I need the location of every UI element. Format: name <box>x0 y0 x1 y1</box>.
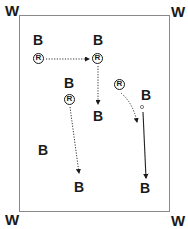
player-b5: B <box>141 88 151 102</box>
player-b6: B <box>38 143 48 157</box>
small-dot-marker <box>140 105 143 108</box>
player-b1: B <box>33 33 43 47</box>
player-b4: B <box>93 109 103 123</box>
receiver-r3-icon: R <box>64 94 75 105</box>
player-b7: B <box>74 180 84 194</box>
path-b5-to-b8-solid <box>143 112 146 178</box>
receiver-r2-icon: R <box>92 53 103 64</box>
play-diagram: W W W W B B B B B B B B R R R R <box>0 0 188 229</box>
receiver-r1-icon: R <box>33 53 44 64</box>
player-b2: B <box>93 33 103 47</box>
path-r4-curve <box>121 93 137 122</box>
path-r3-down <box>70 107 79 173</box>
player-b8: B <box>140 181 150 195</box>
receiver-r4-icon: R <box>114 79 125 90</box>
player-b3: B <box>64 76 74 90</box>
